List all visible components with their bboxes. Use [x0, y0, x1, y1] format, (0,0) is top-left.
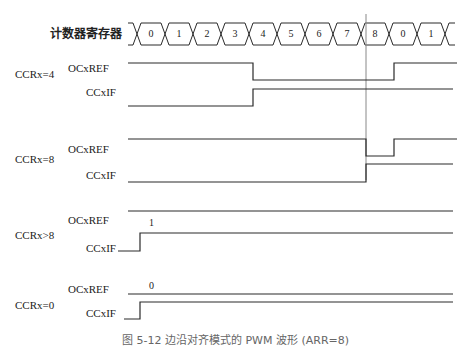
- ccxif-ccr0-wave: [124, 302, 453, 319]
- ocxref-label: OCxREF: [68, 62, 109, 74]
- ccxif-label: CCxIF: [86, 86, 116, 98]
- ocxref-label: OCxREF: [68, 283, 109, 295]
- ocxref-label: OCxREF: [68, 143, 109, 155]
- group-label-ccr8: CCRx=8: [15, 153, 54, 165]
- counter-register-label: 计数器寄存器: [50, 28, 122, 40]
- ref-note-one: 1: [149, 217, 154, 229]
- counter-value: 1: [421, 29, 441, 39]
- counter-value: 2: [197, 29, 217, 39]
- group-label-ccr0: CCRx=0: [15, 299, 54, 311]
- ccxif-ccr4-wave: [128, 89, 453, 106]
- ocxref-ccr8-wave: [128, 139, 457, 156]
- group-label-ccrgt8: CCRx>8: [15, 229, 54, 241]
- ccxif-label: CCxIF: [86, 242, 116, 254]
- ccxif-label: CCxIF: [86, 307, 116, 319]
- ocxref-ccr4-wave: [128, 63, 457, 80]
- counter-value: 6: [309, 29, 329, 39]
- group-label-ccr4: CCRx=4: [15, 68, 54, 80]
- counter-value: 5: [281, 29, 301, 39]
- ocxref-label: OCxREF: [68, 214, 109, 226]
- counter-value: 7: [337, 29, 357, 39]
- counter-value: 0: [393, 29, 413, 39]
- ccxif-ccrgt8-wave: [118, 233, 453, 251]
- counter-value: 0: [141, 29, 161, 39]
- counter-value: 3: [225, 29, 245, 39]
- figure-caption: 图 5-12 边沿对齐模式的 PWM 波形 (ARR=8): [0, 331, 471, 347]
- ccxif-ccr8-wave: [128, 164, 453, 182]
- counter-value: 8: [365, 29, 385, 39]
- counter-value: 1: [169, 29, 189, 39]
- ccxif-label: CCxIF: [86, 169, 116, 181]
- counter-value: 4: [253, 29, 273, 39]
- ref-note-zero: 0: [149, 280, 154, 292]
